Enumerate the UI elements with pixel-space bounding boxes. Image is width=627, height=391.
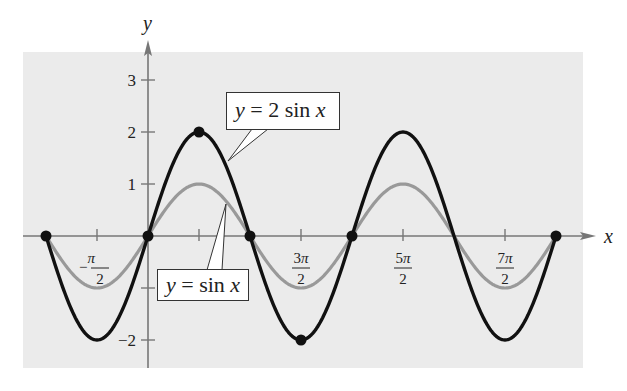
x-tick-denominator: 2 [96,271,104,287]
callout-2-sin-x: y = 2 sin x [226,92,340,130]
marked-point [194,127,205,138]
callout-sin-var: y [166,272,176,297]
callout-2sin-var: y [235,97,245,122]
x-tick-denominator: 2 [297,271,305,287]
y-tick-label: 1 [128,175,137,194]
sine-graph: −π23π25π27π2321−2 x y [0,0,627,391]
x-tick-denominator: 2 [399,271,407,287]
y-tick-label: 3 [128,71,137,90]
callout-sin-eq: = sin [176,272,231,297]
x-tick-numerator: 3π [293,250,309,266]
x-tick-denominator: 2 [501,271,509,287]
x-tick-numerator: 5π [395,250,411,266]
x-axis-label: x [603,225,613,247]
marked-point [244,231,255,242]
callout-sin-x: y = sin x [157,269,249,301]
marked-point [143,231,154,242]
callout-sin-arg: x [230,272,240,297]
marked-point [550,231,561,242]
x-tick-numerator: 7π [497,250,513,266]
y-tick-label: −2 [118,331,136,350]
marked-point [41,231,52,242]
y-axis-label: y [141,12,152,35]
callout-2sin-eq: = 2 sin [245,97,316,122]
y-tick-label: 2 [128,123,137,142]
marked-point [296,335,307,346]
callout-2sin-arg: x [316,97,326,122]
marked-point [347,231,358,242]
